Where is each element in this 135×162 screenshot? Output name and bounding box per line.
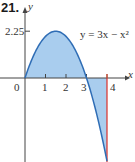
origin-label: 0 <box>14 81 20 93</box>
problem-number: 21. <box>1 0 19 15</box>
area-chart: 21. 2.25 y x 0 1 2 3 4 y = 3x − x² <box>0 0 135 162</box>
shaded-area <box>25 31 107 161</box>
equation-label: y = 3x − x² <box>80 28 129 40</box>
x-tick-label-2: 2 <box>63 81 69 93</box>
x-tick-label-4: 4 <box>110 81 116 93</box>
x-tick-label-1: 1 <box>42 81 48 93</box>
y-tick-label: 2.25 <box>5 25 25 37</box>
y-axis-arrow-icon <box>23 7 28 13</box>
y-axis-label: y <box>27 0 33 12</box>
x-tick-label-3: 3 <box>81 81 87 93</box>
x-axis-label: x <box>127 68 133 80</box>
